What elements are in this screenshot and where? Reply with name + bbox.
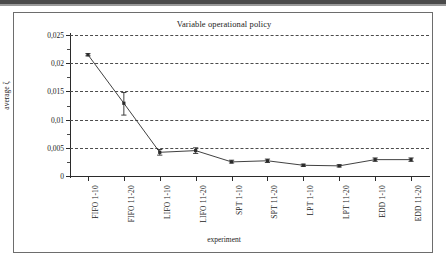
x-tick-mark (303, 176, 304, 181)
y-tick-label: 0,005 (20, 144, 64, 153)
scan-artifact-band-secondary (0, 4, 446, 6)
chart-frame: Variable operational policy average ζ 0,… (13, 12, 433, 253)
x-tick-label: FIFO 1-10 (91, 185, 100, 219)
x-axis-title: experiment (14, 235, 434, 244)
data-series (70, 35, 429, 176)
x-tick-mark (196, 176, 197, 181)
x-tick-mark (339, 176, 340, 181)
plot-area (70, 35, 429, 176)
data-point-marker (122, 102, 125, 105)
x-tick-label: LIFO 11-20 (199, 185, 208, 223)
data-point-marker (230, 160, 233, 163)
x-tick-mark (124, 176, 125, 181)
y-tick-label: 0,01 (20, 116, 64, 125)
x-tick-label: LIFO 1-10 (163, 185, 172, 219)
x-tick-mark (267, 176, 268, 181)
chart-title: Variable operational policy (14, 19, 434, 29)
x-tick-label: FIFO 11-20 (127, 185, 136, 222)
y-axis-title: average ζ (2, 81, 11, 109)
series-line (88, 55, 411, 166)
data-point-marker (194, 149, 197, 152)
x-tick-label: LPT 1-10 (306, 185, 315, 215)
data-point-marker (409, 158, 412, 161)
data-point-marker (374, 158, 377, 161)
data-point-marker (338, 164, 341, 167)
x-tick-label: SPT 1-10 (235, 185, 244, 215)
x-tick-label: EDD 1-10 (378, 185, 387, 218)
x-tick-mark (375, 176, 376, 181)
x-tick-mark (160, 176, 161, 181)
x-tick-mark (411, 176, 412, 181)
y-tick-label: 0,015 (20, 87, 64, 96)
y-tick-label: 0 (20, 172, 64, 181)
x-tick-label: EDD 11-20 (414, 185, 423, 221)
x-tick-mark (88, 176, 89, 181)
data-point-marker (266, 159, 269, 162)
data-point-marker (302, 164, 305, 167)
y-axis-labels: 0,0250,020,0150,010,0050 (14, 13, 64, 254)
y-tick-label: 0,025 (20, 31, 64, 40)
x-tick-label: LPT 11-20 (342, 185, 351, 219)
data-point-marker (158, 151, 161, 154)
x-tick-mark (232, 176, 233, 181)
data-point-marker (86, 53, 89, 56)
x-tick-label: SPT 11-20 (270, 185, 279, 219)
y-tick-label: 0,02 (20, 59, 64, 68)
chart-screenshot: Variable operational policy average ζ 0,… (0, 0, 446, 266)
